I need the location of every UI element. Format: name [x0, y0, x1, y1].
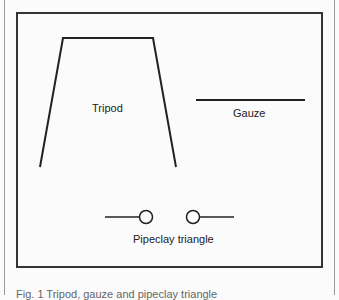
pipeclay-triangle-label: Pipeclay triangle — [133, 233, 214, 245]
figure-caption: Fig. 1 Tripod, gauze and pipeclay triang… — [16, 288, 217, 300]
gauze-label: Gauze — [233, 107, 265, 119]
pipeclay-triangle-shape — [105, 211, 234, 224]
tripod-label: Tripod — [92, 102, 123, 114]
